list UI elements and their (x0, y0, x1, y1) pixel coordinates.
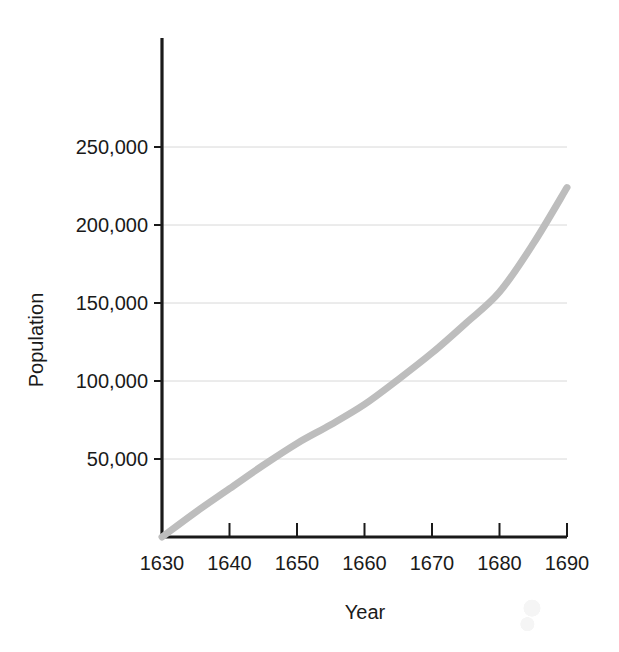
gridlines (162, 147, 567, 459)
y-axis-tick-label: 200,000 (76, 214, 148, 236)
x-axis-tick-label: 1630 (140, 552, 185, 574)
y-axis-tick-label: 100,000 (76, 370, 148, 392)
x-axis-ticks (162, 523, 567, 537)
x-axis-tick-label: 1690 (545, 552, 590, 574)
line-chart: 50,000100,000150,000200,000250,000 16301… (0, 0, 619, 652)
y-axis-tick-label: 250,000 (76, 136, 148, 158)
y-axis-tick-label: 50,000 (87, 448, 148, 470)
population-line-series (162, 188, 567, 537)
chart-container: 50,000100,000150,000200,000250,000 16301… (0, 0, 619, 652)
x-axis-tick-labels: 1630164016501660167016801690 (140, 552, 590, 574)
x-axis-tick-label: 1640 (207, 552, 252, 574)
x-axis-tick-label: 1680 (477, 552, 522, 574)
x-axis-title: Year (345, 601, 386, 623)
y-axis-tick-label: 150,000 (76, 292, 148, 314)
x-axis-tick-label: 1650 (275, 552, 320, 574)
y-axis-title: Population (25, 293, 47, 388)
x-axis-tick-label: 1660 (342, 552, 387, 574)
x-axis-tick-label: 1670 (410, 552, 455, 574)
y-axis-tick-labels: 50,000100,000150,000200,000250,000 (76, 136, 148, 470)
